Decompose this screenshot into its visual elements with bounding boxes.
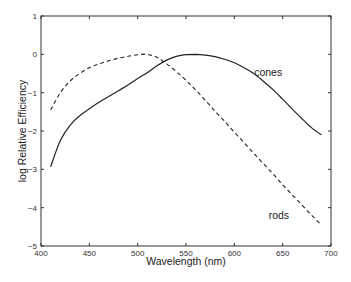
x-tick-label: 700 [324,249,338,258]
cones-annotation: cones [254,66,282,78]
rods-annotation: rods [269,209,289,221]
y-tick-label: −3 [28,165,38,174]
x-axis-label: Wavelength (nm) [146,255,226,267]
rods-line [51,54,322,225]
y-tick-label: −5 [28,242,38,251]
y-tick-label: −1 [28,89,38,98]
x-tick-label: 650 [276,249,290,258]
x-tick-label: 600 [228,249,242,258]
y-axis-label: log Relative Efficiency [16,79,28,182]
y-tick-label: −2 [28,127,38,136]
x-tick-label: 450 [83,249,97,258]
chart: 400450500550600650700 −5−4−3−2−101 cones… [0,0,351,282]
y-tick-label: 1 [33,12,38,21]
y-tick-label: −4 [28,204,38,213]
y-tick-labels: −5−4−3−2−101 [28,12,38,251]
y-tick-label: 0 [33,50,38,59]
x-tick-label: 500 [131,249,145,258]
